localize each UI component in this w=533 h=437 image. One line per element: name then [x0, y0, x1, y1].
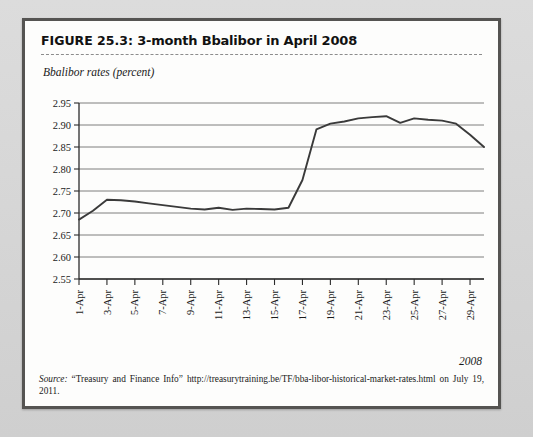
- chart-area: 2.952.902.852.802.752.702.652.602.55 1-A…: [39, 95, 490, 363]
- x-tick-label: 19-Apr: [325, 289, 336, 320]
- x-tick-label: 13-Apr: [241, 289, 252, 320]
- x-axis-year-label: 2008: [459, 355, 482, 367]
- source-note: Source: “Treasury and Finance Info” http…: [39, 373, 484, 398]
- x-tick-label: 9-Apr: [185, 289, 196, 315]
- y-tick-label: 2.60: [53, 252, 71, 263]
- figure-inner: FIGURE 25.3: 3-month Bbalibor in April 2…: [25, 21, 498, 406]
- y-axis-caption: Bbalibor rates (percent): [43, 66, 484, 78]
- y-tick-label: 2.90: [53, 120, 71, 131]
- figure-title-text: 3-month Bbalibor in April 2008: [137, 33, 357, 48]
- title-divider: [41, 54, 482, 55]
- y-tick-label: 2.75: [53, 186, 71, 197]
- figure-title: FIGURE 25.3: 3-month Bbalibor in April 2…: [39, 33, 484, 48]
- figure-box: FIGURE 25.3: 3-month Bbalibor in April 2…: [22, 18, 501, 409]
- x-tick-label: 17-Apr: [297, 289, 308, 320]
- x-tick-labels-group: 1-Apr3-Apr5-Apr7-Apr9-Apr11-Apr13-Apr15-…: [74, 289, 476, 320]
- page-background: FIGURE 25.3: 3-month Bbalibor in April 2…: [0, 0, 533, 437]
- y-tick-label: 2.85: [53, 142, 71, 153]
- x-tick-label: 11-Apr: [213, 289, 224, 319]
- x-tick-label: 3-Apr: [102, 289, 113, 315]
- x-tick-label: 1-Apr: [74, 289, 85, 315]
- x-tick-label: 21-Apr: [353, 289, 364, 320]
- data-series-line: [79, 116, 484, 219]
- y-tick-label: 2.70: [53, 208, 71, 219]
- y-tick-labels-group: 2.952.902.852.802.752.702.652.602.55: [53, 98, 71, 285]
- x-tick-label: 7-Apr: [157, 289, 168, 315]
- line-chart: 2.952.902.852.802.752.702.652.602.55 1-A…: [39, 95, 490, 363]
- y-tick-label: 2.95: [53, 98, 71, 109]
- y-tick-label: 2.80: [53, 164, 71, 175]
- x-tick-label: 25-Apr: [409, 289, 420, 320]
- x-tick-label: 15-Apr: [269, 289, 280, 320]
- y-tick-label: 2.65: [53, 230, 71, 241]
- source-label: Source:: [39, 374, 68, 384]
- source-text: “Treasury and Finance Info” http://treas…: [39, 374, 484, 396]
- y-tick-label: 2.55: [53, 274, 71, 285]
- figure-number: FIGURE 25.3:: [41, 33, 133, 48]
- x-tick-label: 5-Apr: [129, 289, 140, 315]
- x-tick-label: 23-Apr: [381, 289, 392, 320]
- y-tick-marks-group: [74, 103, 79, 279]
- gridlines-group: [79, 103, 484, 279]
- x-tick-marks-group: [79, 279, 470, 285]
- x-tick-label: 29-Apr: [465, 289, 476, 320]
- x-tick-label: 27-Apr: [437, 289, 448, 320]
